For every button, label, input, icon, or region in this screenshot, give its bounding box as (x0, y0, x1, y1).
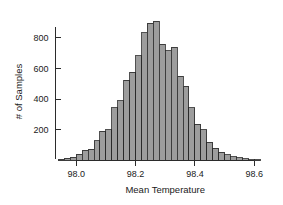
histogram-bar (159, 44, 165, 160)
bars-layer (58, 21, 260, 160)
x-tick-label: 98.4 (186, 169, 204, 179)
histogram-bar (112, 108, 118, 161)
histogram-bar (171, 47, 177, 160)
y-tick-label: 400 (33, 94, 48, 104)
histogram-bar (230, 157, 236, 161)
y-axis-title: # of Samples (13, 64, 24, 120)
histogram-bar (136, 56, 142, 161)
histogram-bar (189, 108, 195, 161)
histogram-bar (76, 154, 82, 160)
x-axis-title: Mean Temperature (125, 184, 205, 195)
histogram-bar (165, 51, 171, 161)
histogram-bar (70, 157, 76, 160)
histogram-bar (88, 149, 94, 160)
histogram-bar (118, 101, 124, 161)
histogram-bar (94, 141, 100, 161)
histogram-plot: 20040060080098.098.298.498.6Mean Tempera… (0, 0, 283, 205)
y-tick-label: 200 (33, 125, 48, 135)
histogram-bar (225, 155, 231, 161)
histogram-bar (100, 131, 106, 160)
histogram-bar (153, 21, 159, 160)
histogram-bar (254, 160, 260, 161)
x-tick-label: 98.0 (68, 169, 86, 179)
x-tick-label: 98.6 (245, 169, 263, 179)
histogram-bar (177, 76, 183, 160)
histogram-bar (201, 130, 207, 161)
histogram-bar (183, 86, 189, 160)
histogram-bar (195, 124, 201, 160)
histogram-bar (124, 80, 130, 160)
histogram-bar (64, 158, 70, 160)
histogram-bar (130, 72, 136, 160)
histogram-bar (82, 150, 88, 160)
histogram-bar (58, 159, 64, 160)
histogram-bar (219, 152, 225, 160)
y-tick-label: 800 (33, 33, 48, 43)
x-tick-label: 98.2 (127, 169, 145, 179)
y-tick-label: 600 (33, 64, 48, 74)
histogram-bar (142, 33, 148, 161)
histogram-figure: 20040060080098.098.298.498.6Mean Tempera… (0, 0, 283, 205)
histogram-bar (213, 148, 219, 160)
histogram-bar (147, 23, 153, 160)
histogram-bar (106, 130, 112, 161)
histogram-bar (207, 142, 213, 160)
